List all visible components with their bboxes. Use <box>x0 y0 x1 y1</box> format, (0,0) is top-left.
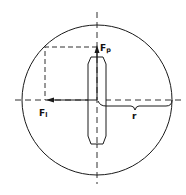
label-force-l: Fl <box>39 108 47 119</box>
radius-brace <box>98 100 172 110</box>
label-radius: r <box>132 111 137 121</box>
label-force-p: Fp <box>100 43 111 54</box>
force-p-arrowhead-icon <box>95 45 100 53</box>
force-l-arrowhead-icon <box>46 98 54 103</box>
force-diagram: Fp Fl r <box>0 0 186 195</box>
